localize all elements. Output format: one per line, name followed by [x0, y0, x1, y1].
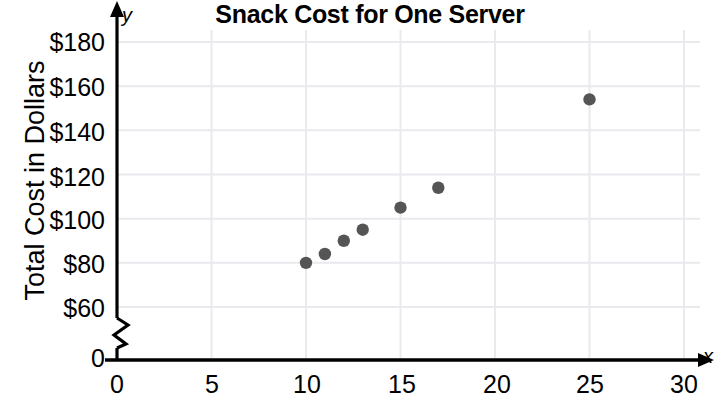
data-point: [338, 235, 350, 247]
y-axis-arrowhead: [110, 1, 124, 17]
data-points: [300, 93, 596, 269]
y-axis-break-zigzag: [114, 318, 128, 348]
x-axis-arrowhead: [698, 353, 714, 367]
plot-area: [0, 0, 720, 414]
data-point: [319, 248, 331, 260]
data-point: [300, 257, 312, 269]
data-point: [394, 201, 406, 213]
data-point: [583, 93, 595, 105]
grid-lines: [118, 30, 700, 358]
data-point: [432, 182, 444, 194]
data-point: [357, 224, 369, 236]
scatter-chart: Snack Cost for One Server Total Cost in …: [0, 0, 720, 414]
axis-lines: [105, 1, 714, 367]
